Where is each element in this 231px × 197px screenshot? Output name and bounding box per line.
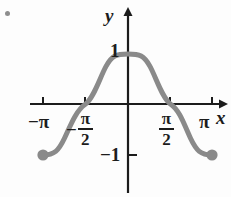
fraction-numerator: π (160, 110, 173, 128)
fraction-sign: − (66, 120, 77, 139)
fraction-denominator: 2 (160, 130, 173, 148)
x-tick-label-neg-half-pi: − π 2 (66, 110, 93, 148)
curve-endpoint-left (37, 149, 48, 160)
y-axis-label: y (105, 6, 113, 25)
y-tick-label-one: 1 (110, 41, 120, 60)
x-axis-label: x (216, 108, 226, 127)
fraction-stack: π 2 (159, 110, 174, 148)
curve-endpoint-right (206, 149, 217, 160)
cosine-graph-figure: y x 1 −1 −π − π 2 π 2 π (0, 0, 231, 197)
y-axis-arrowhead (124, 7, 133, 16)
fraction-stack: π 2 (78, 110, 93, 148)
plot-canvas (0, 0, 231, 197)
fraction-denominator: 2 (79, 130, 92, 148)
fraction-numerator: π (79, 110, 92, 128)
y-tick-label-neg-one: −1 (100, 145, 120, 164)
x-tick-label-neg-pi: −π (28, 112, 49, 131)
x-tick-label-pi: π (199, 112, 209, 131)
x-tick-label-half-pi: π 2 (158, 110, 174, 148)
